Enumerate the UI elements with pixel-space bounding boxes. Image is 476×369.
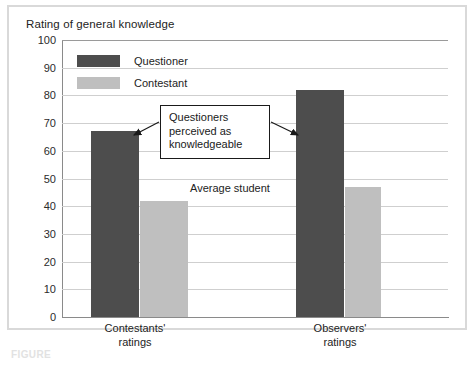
annotation-average-student: Average student — [190, 182, 270, 194]
y-tick-label: 90 — [16, 62, 56, 74]
legend-label-questioner: Questioner — [134, 55, 188, 67]
y-tick-label: 80 — [16, 89, 56, 101]
annotation-callout: Questioners perceived as knowledgeable — [160, 105, 270, 159]
x-axis-line — [62, 317, 449, 318]
figure-container: Rating of general knowledge 100 90 80 70… — [0, 0, 476, 369]
y-tick-label: 50 — [16, 173, 56, 185]
figure-caption: FIGURE — [11, 349, 51, 360]
bar-questioner-observers[interactable] — [296, 90, 344, 317]
bar-questioner-contestants[interactable] — [91, 131, 139, 317]
y-tick-label: 40 — [16, 200, 56, 212]
legend-label-contestant: Contestant — [134, 77, 187, 89]
y-tick-label: 30 — [16, 228, 56, 240]
callout-line: perceived as — [169, 125, 262, 139]
x-category-observers: Observers' ratings — [287, 322, 393, 349]
callout-line: Questioners — [169, 111, 262, 125]
legend-swatch-questioner — [77, 55, 120, 67]
y-tick-label: 100 — [16, 34, 56, 46]
bar-contestant-observers[interactable] — [345, 187, 381, 317]
y-tick-label: 20 — [16, 256, 56, 268]
chart-title: Rating of general knowledge — [26, 18, 174, 30]
y-tick-label: 0 — [16, 311, 56, 323]
x-category-line: ratings — [79, 336, 191, 350]
legend-item-questioner[interactable]: Questioner — [77, 52, 217, 70]
legend-swatch-contestant — [77, 77, 120, 89]
legend: Questioner Contestant — [77, 52, 217, 96]
bar-contestant-contestants[interactable] — [140, 201, 188, 317]
y-tick-label: 10 — [16, 283, 56, 295]
y-tick-label: 60 — [16, 145, 56, 157]
y-tick-label: 70 — [16, 117, 56, 129]
x-category-line: Observers' — [287, 322, 393, 336]
x-category-line: ratings — [287, 336, 393, 350]
x-category-contestants: Contestants' ratings — [79, 322, 191, 349]
y-axis-ticks: 100 90 80 70 60 50 40 30 20 10 0 — [12, 40, 56, 318]
callout-line: knowledgeable — [169, 138, 262, 152]
x-category-line: Contestants' — [79, 322, 191, 336]
gridline-100 — [62, 40, 448, 41]
legend-item-contestant[interactable]: Contestant — [77, 74, 217, 92]
